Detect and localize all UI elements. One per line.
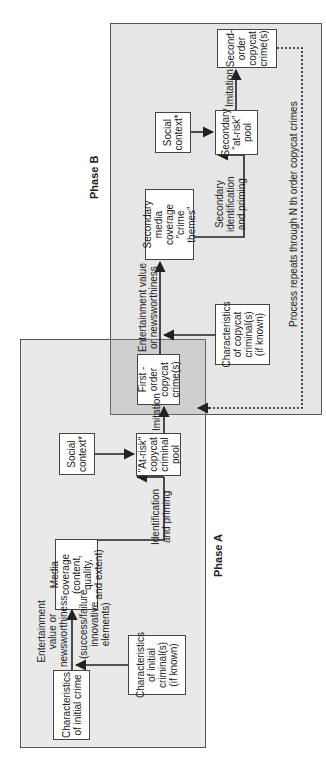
copycat-criminal-box: Characteristics of copycat criminal(s) (…: [215, 304, 270, 365]
initial-criminal-box: Characteristics of initial criminal(s) (…: [128, 635, 186, 695]
process-repeats-label: Process repeats through N th order copyc…: [288, 101, 299, 327]
imitation-label-a: Imitation: [151, 393, 162, 431]
copycat-crime-diagram: Phase A Phase B: [0, 0, 326, 767]
social-context-a-box: Social context*: [59, 433, 95, 475]
entertainment-label-a: Entertainment value or newsworthiness: [36, 596, 69, 667]
at-risk-pool-box: "At-risk" copycat criminal pool: [136, 433, 181, 476]
secondary-pool-box: Secondary "at-risk" pool: [215, 110, 258, 155]
entertainment-label-b: Entertainment value or newsworthiness: [137, 263, 159, 352]
identification-label-a: Identification and priming: [150, 489, 172, 545]
imitation-label-b: Imitation: [224, 69, 235, 107]
success-failure-label: (success/failure innovative elements): [78, 590, 111, 659]
secondary-media-box: Secondary media coverage "crime themes": [145, 189, 194, 260]
initial-crime-box: Characteristics of initial crime: [53, 670, 90, 740]
second-order-crime-box: Second- order copycat crime(s): [217, 29, 277, 68]
identification-label-b: Secondary identification and priming: [214, 176, 247, 232]
social-context-b-box: Social context*: [155, 112, 191, 153]
